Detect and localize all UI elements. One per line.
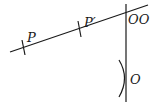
label-p: P [26, 30, 36, 45]
diagram-canvas: P P′ OO O [0, 0, 158, 108]
label-o: O [130, 72, 141, 87]
label-oo: OO [128, 12, 150, 27]
label-p-prime: P′ [83, 15, 96, 30]
arc [119, 60, 125, 97]
